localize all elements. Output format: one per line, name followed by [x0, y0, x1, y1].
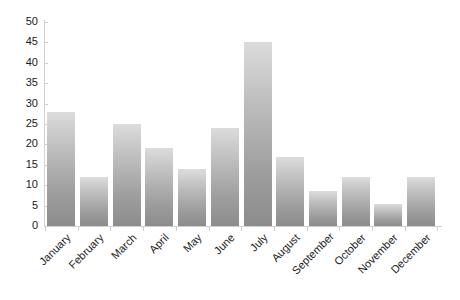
x-axis-tick-label-text: July: [248, 232, 270, 254]
x-axis-tick-labels: JanuaryFebruaryMarchAprilMayJuneJulyAugu…: [0, 0, 460, 300]
x-axis-tick-label-text: March: [109, 232, 138, 261]
bar-chart: 05101520253035404550 JanuaryFebruaryMarc…: [0, 0, 460, 300]
x-axis-tick-label-text: June: [212, 232, 237, 257]
x-axis-tick-label-text: April: [148, 232, 171, 255]
x-axis-tick-label-text: May: [181, 232, 203, 254]
